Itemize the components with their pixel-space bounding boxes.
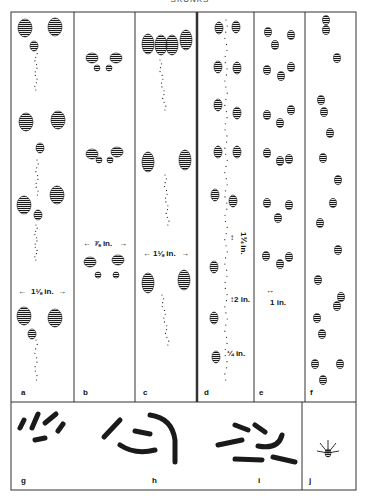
- footprint-f: [317, 219, 324, 228]
- drag-mark: [167, 205, 168, 206]
- drag-mark: [36, 375, 37, 376]
- tail-drag: [224, 38, 225, 39]
- footprint-b: [113, 272, 119, 278]
- drag-mark: [164, 321, 165, 322]
- measurement-d-gap: 2 in.: [234, 295, 250, 304]
- scat-g: [45, 414, 56, 423]
- tracks-figure: a b c d e f g h i j 1⅛ in. ← → ⅞ in. ← →…: [0, 0, 367, 502]
- drag-mark: [36, 187, 37, 188]
- drag-mark: [37, 228, 38, 229]
- drag-mark: [161, 294, 162, 295]
- tail-drag: [225, 288, 226, 289]
- measurement-b: ⅞ in. ← →: [83, 239, 127, 248]
- footprint-e: [277, 119, 284, 128]
- scat-h: [135, 431, 150, 434]
- footprint-f: [330, 199, 337, 208]
- measurement-a: 1⅛ in. ← →: [18, 287, 66, 296]
- arrow-vertical-icon: ↕: [230, 295, 234, 304]
- tail-drag: [226, 367, 227, 368]
- footprint-b: [86, 53, 98, 63]
- drag-mark: [163, 94, 164, 95]
- footprint-c: [142, 152, 154, 172]
- footprint-e: [265, 28, 272, 37]
- tail-drag: [226, 361, 227, 362]
- drag-mark: [165, 333, 166, 334]
- arrow-left-icon: ←: [18, 287, 26, 296]
- drag-mark: [167, 217, 168, 218]
- drag-mark: [35, 49, 36, 50]
- tail-drag: [225, 379, 226, 380]
- footprint-e: [278, 72, 285, 81]
- tail-drag: [225, 312, 226, 313]
- footprint-a: [36, 143, 44, 153]
- scat-h: [150, 415, 175, 462]
- footprint-f: [323, 16, 330, 25]
- footprint-c: [155, 35, 167, 55]
- drag-mark: [37, 191, 38, 192]
- tail-drag: [225, 349, 226, 350]
- tail-drag: [226, 68, 227, 69]
- tail-drag: [225, 99, 226, 100]
- tail-drag: [227, 93, 228, 94]
- footprint-a: [17, 196, 31, 214]
- drag-mark: [36, 357, 37, 358]
- arrow-left-icon: ←: [83, 239, 91, 248]
- drag-mark: [166, 325, 167, 326]
- tail-drag: [226, 343, 227, 344]
- measurement-b-text: ⅞ in.: [94, 239, 112, 248]
- footprint-a: [34, 210, 42, 220]
- drag-mark: [162, 98, 163, 99]
- footprint-f: [327, 129, 334, 138]
- footprint-e: [264, 66, 271, 75]
- footprint-b: [94, 65, 100, 71]
- footprint-e: [286, 155, 293, 164]
- footprint-b: [107, 157, 113, 163]
- tail-drag: [226, 337, 227, 338]
- footprint-f: [323, 26, 330, 35]
- panel-label-d: d: [204, 388, 209, 397]
- panel-label-h: h: [152, 476, 157, 485]
- drag-mark: [165, 182, 166, 183]
- drag-mark: [35, 259, 36, 260]
- footprint-d: [210, 261, 218, 273]
- footprint-b: [86, 149, 98, 159]
- footprint-f: [320, 154, 327, 163]
- tail-drag: [224, 215, 225, 216]
- tail-drag: [226, 141, 227, 142]
- tail-drag: [226, 44, 227, 45]
- panel-label-a: a: [21, 388, 26, 397]
- drag-mark: [37, 175, 38, 176]
- tail-drag: [226, 74, 227, 75]
- footprint-a: [18, 19, 32, 37]
- tail-drag: [226, 178, 227, 179]
- tail-drag: [225, 257, 226, 258]
- tail-drag: [227, 184, 228, 185]
- tail-drag: [226, 294, 227, 295]
- drag-mark: [168, 341, 169, 342]
- drag-mark: [38, 163, 39, 164]
- tail-drag: [224, 263, 225, 264]
- footprint-d: [215, 22, 223, 34]
- footprint-f: [337, 360, 344, 369]
- drag-mark: [35, 171, 36, 172]
- drag-mark: [161, 82, 162, 83]
- drag-mark: [37, 344, 38, 345]
- footprint-d: [212, 351, 220, 363]
- arrow-right-icon: →: [119, 239, 127, 248]
- drag-mark: [166, 178, 167, 179]
- footprint-b: [95, 272, 101, 278]
- drag-mark: [35, 348, 36, 349]
- drag-mark: [36, 379, 37, 380]
- drag-mark: [164, 310, 165, 311]
- footprint-e: [288, 106, 295, 115]
- footprint-d: [214, 146, 222, 158]
- drag-mark: [37, 194, 38, 195]
- drag-mark: [36, 167, 37, 168]
- tail-drag: [225, 324, 226, 325]
- scat-g: [35, 438, 45, 440]
- footprint-b: [106, 65, 112, 71]
- tail-drag: [224, 172, 225, 173]
- drag-mark: [34, 353, 35, 354]
- footprint-e: [286, 253, 293, 262]
- panel-label-e: e: [259, 388, 264, 397]
